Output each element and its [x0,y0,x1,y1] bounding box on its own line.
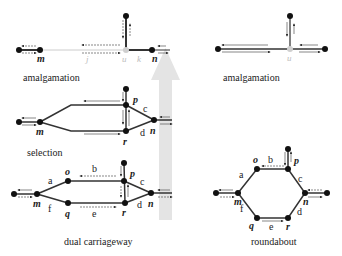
label-n: n [152,53,158,64]
label-a: a [48,175,53,186]
node-m [34,191,40,197]
panel-roundabout: m o p n r q a b c d e f [213,146,330,232]
label-m: m [37,53,45,64]
label-p: p [293,155,299,166]
node-end [121,160,127,166]
node-end [322,46,328,52]
node-p [123,102,129,108]
label-j: j [85,54,89,64]
label-k: k [137,54,142,64]
label-o: o [253,154,258,165]
label-b: b [268,154,273,165]
label-r: r [286,221,290,232]
node-o [65,178,71,184]
node-n [151,117,157,123]
node-end [213,190,219,196]
label-r: r [123,136,127,147]
label-e: e [92,208,97,219]
label-a: a [239,169,244,180]
node-o [254,166,260,172]
panel-amalgamation-right: u [215,13,328,63]
node-end [16,119,22,125]
panel-dual-carriageway: m o q p r n a b c d e f [11,160,172,219]
node-q [254,215,260,221]
node-m [37,119,43,125]
label-r: r [122,207,126,218]
road-generalization-diagram: m j u k n u [0,0,342,256]
caption-amalgamation-right: amalgamation [223,72,280,83]
node-end [287,13,293,19]
node-p [121,178,127,184]
caption-selection: selection [27,147,63,158]
label-q: q [65,208,70,219]
label-n: n [303,196,309,207]
node-u [287,46,293,52]
label-c: c [298,173,303,184]
node-p [285,166,291,172]
node-end [11,191,17,197]
label-f: f [48,203,52,214]
label-u: u [287,53,292,63]
node-end [324,190,330,196]
node-n [148,190,154,196]
label-b: b [92,163,97,174]
label-o: o [65,166,70,177]
node-end [285,146,291,152]
label-c: c [140,176,145,187]
label-p: p [132,94,138,105]
label-u: u [122,54,127,64]
caption-roundabout: roundabout [251,236,297,247]
label-m: m [36,126,44,137]
label-q: q [249,220,254,231]
label-f: f [240,203,244,214]
node-r [123,128,129,134]
label-e: e [269,221,274,232]
label-d: d [297,206,302,217]
caption-dual-carriageway: dual carriageway [64,236,133,247]
node-end [123,13,129,19]
panel-amalgamation-left: m j u k n [16,13,170,64]
node-end [215,46,221,52]
node-r [122,200,128,206]
label-n: n [148,198,154,209]
label-c: c [143,103,148,114]
panel-selection: m p r n c d [16,86,172,147]
caption-amalgamation-left: amalgamation [23,72,80,83]
label-d: d [140,127,145,138]
node-u [123,47,129,53]
node-end [123,86,129,92]
node-end [16,47,22,53]
label-m: m [33,198,41,209]
label-p: p [129,168,135,179]
label-d: d [137,199,142,210]
node-q [65,200,71,206]
label-n: n [150,125,156,136]
